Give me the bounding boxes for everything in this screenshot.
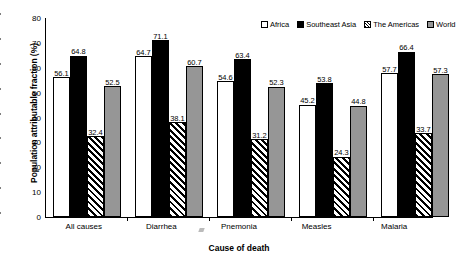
bar-group: 64.771.138.160.7 — [128, 18, 210, 217]
bar-slot: 64.8 — [70, 18, 87, 217]
bar-slot: 63.4 — [234, 18, 251, 217]
plot-area: 80 70 60 50 40 30 20 10 0 Africa Southea… — [45, 18, 433, 218]
x-tick-label: Measles — [278, 222, 356, 231]
bar[interactable]: 56.1 — [53, 77, 70, 217]
bar-slot: 53.8 — [316, 18, 333, 217]
bar-slot: 31.2 — [251, 18, 268, 217]
x-tick-label: Diarrhea — [123, 222, 201, 231]
bar[interactable]: 45.2 — [299, 105, 316, 217]
x-axis-title: Cause of death — [45, 243, 433, 253]
bar-slot: 45.2 — [299, 18, 316, 217]
bar-value-label: 64.8 — [71, 48, 86, 56]
bar-value-label: 71.1 — [153, 33, 168, 41]
bar-slot: 52.3 — [268, 18, 285, 217]
bar-value-label: 60.7 — [187, 59, 202, 67]
bar-value-label: 63.4 — [235, 52, 250, 60]
y-tick-70: 70 — [1, 38, 46, 47]
bar-value-label: 45.2 — [300, 97, 315, 105]
y-tick-20: 20 — [1, 163, 46, 172]
bar[interactable]: 24.3 — [333, 157, 350, 217]
bar[interactable]: 32.4 — [87, 136, 104, 217]
bar-value-label: 64.7 — [136, 49, 151, 57]
bar[interactable]: 38.1 — [169, 122, 186, 217]
bar-value-label: 66.4 — [399, 44, 414, 52]
bar[interactable]: 44.8 — [350, 106, 367, 217]
y-tick-label: 30 — [32, 138, 41, 147]
bar-slot: 71.1 — [152, 18, 169, 217]
x-tick-label: All causes — [45, 222, 123, 231]
y-tick-label: 40 — [32, 113, 41, 122]
y-tick-80: 80 — [1, 14, 46, 23]
bar[interactable]: 57.7 — [381, 73, 398, 217]
bar[interactable]: 64.7 — [135, 56, 152, 217]
x-axis-tick-labels: All causesDiarrheaPnemoniaMeaslesMalaria — [45, 222, 433, 231]
bar[interactable]: 33.7 — [415, 133, 432, 217]
bar-slot: 33.7 — [415, 18, 432, 217]
bar[interactable]: 63.4 — [234, 59, 251, 217]
y-tick-40: 40 — [1, 113, 46, 122]
bar-groups: 56.164.832.452.564.771.138.160.754.663.4… — [46, 18, 433, 217]
bar-value-label: 31.2 — [252, 132, 267, 140]
bar-slot: 60.7 — [186, 18, 203, 217]
bar-slot: 44.8 — [350, 18, 367, 217]
bar-value-label: 52.3 — [269, 79, 284, 87]
bar-value-label: 44.8 — [351, 98, 366, 106]
bar-slot: 52.5 — [104, 18, 121, 217]
bar[interactable]: 31.2 — [251, 139, 268, 217]
bar-slot: 24.3 — [333, 18, 350, 217]
bar-slot: 64.7 — [135, 18, 152, 217]
bar[interactable]: 54.6 — [217, 81, 234, 217]
bar-slot: 66.4 — [398, 18, 415, 217]
bar-slot: 38.1 — [169, 18, 186, 217]
bar-value-label: 57.7 — [382, 66, 397, 74]
x-tick-label: Malaria — [355, 222, 433, 231]
bar-value-label: 53.8 — [317, 76, 332, 84]
y-tick-10: 10 — [1, 188, 46, 197]
y-tick-60: 60 — [1, 63, 46, 72]
y-tick-label: 50 — [32, 88, 41, 97]
bar-slot: 32.4 — [87, 18, 104, 217]
y-tick-label: 0 — [37, 213, 41, 222]
bar-slot: 56.1 — [53, 18, 70, 217]
bar-value-label: 24.3 — [334, 149, 349, 157]
bar-value-label: 56.1 — [54, 70, 69, 78]
x-tick-label: Pnemonia — [200, 222, 278, 231]
bar[interactable]: 60.7 — [186, 66, 203, 217]
bar-slot: 57.7 — [381, 18, 398, 217]
bar-group: 54.663.431.252.3 — [210, 18, 292, 217]
bar-value-label: 38.1 — [170, 115, 185, 123]
bar-group: 45.253.824.344.8 — [292, 18, 374, 217]
bar[interactable]: 64.8 — [70, 56, 87, 217]
bar-value-label: 52.5 — [105, 79, 120, 87]
y-tick-label: 10 — [32, 188, 41, 197]
bar[interactable]: 52.5 — [104, 86, 121, 217]
bar-group: 56.164.832.452.5 — [46, 18, 128, 217]
y-tick-label: 60 — [32, 63, 41, 72]
bar-slot: 54.6 — [217, 18, 234, 217]
bar[interactable]: 52.3 — [268, 87, 285, 217]
bar[interactable]: 66.4 — [398, 52, 415, 217]
bar-value-label: 54.6 — [218, 74, 233, 82]
bar[interactable]: 53.8 — [316, 83, 333, 217]
bar-slot: 57.3 — [432, 18, 449, 217]
bar-value-label: 57.3 — [433, 67, 448, 75]
y-tick-label: 70 — [32, 38, 41, 47]
y-tick-label: 20 — [32, 163, 41, 172]
bar[interactable]: 71.1 — [152, 40, 169, 217]
bar[interactable]: 57.3 — [432, 74, 449, 217]
y-tick-0: 0 — [1, 213, 46, 222]
y-tick-30: 30 — [1, 138, 46, 147]
y-tick-50: 50 — [1, 88, 46, 97]
bar-value-label: 33.7 — [416, 126, 431, 134]
y-tick-label: 80 — [32, 14, 41, 23]
bar-group: 57.766.433.757.3 — [374, 18, 456, 217]
bar-value-label: 32.4 — [88, 129, 103, 137]
